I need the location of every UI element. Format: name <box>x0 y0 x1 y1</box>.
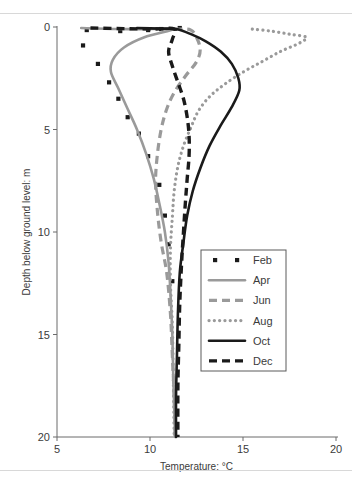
legend-label: Oct <box>253 335 270 347</box>
data-point <box>126 115 130 119</box>
data-point <box>81 43 85 47</box>
data-point <box>116 97 120 101</box>
y-tick-label: 15 <box>38 329 50 341</box>
series-oct <box>137 28 240 437</box>
axes-group <box>53 26 338 441</box>
legend-marker <box>235 258 239 262</box>
series-apr <box>81 28 175 437</box>
y-tick-label: 10 <box>38 226 50 238</box>
chart-legend: FebAprJunAugOctDec <box>201 250 286 371</box>
data-point <box>157 183 161 187</box>
legend-marker <box>213 258 217 262</box>
legend-label: Dec <box>253 355 273 367</box>
series-line <box>81 28 175 437</box>
temperature-depth-plot: 051015205101520Temperature: °CDepth belo… <box>0 0 352 491</box>
bottom-divider-rule <box>0 470 352 471</box>
y-tick-label: 20 <box>38 431 50 443</box>
legend-label: Jun <box>253 294 271 306</box>
y-axis-title: Depth below ground level: m <box>21 169 32 296</box>
series-group <box>81 26 307 437</box>
legend-box <box>201 250 286 371</box>
x-tick-label: 20 <box>330 443 342 455</box>
x-tick-label: 10 <box>144 443 156 455</box>
series-line <box>137 28 240 437</box>
x-tick-label: 5 <box>54 443 60 455</box>
legend-label: Aug <box>253 315 273 327</box>
y-tick-label: 0 <box>44 21 50 33</box>
chart-figure: 051015205101520Temperature: °CDepth belo… <box>0 0 352 491</box>
legend-label: Apr <box>253 274 270 286</box>
legend-label: Feb <box>253 254 272 266</box>
y-tick-label: 5 <box>44 124 50 136</box>
x-tick-label: 15 <box>237 443 249 455</box>
data-point <box>96 62 100 66</box>
top-divider-rule <box>0 13 352 14</box>
data-point <box>107 80 111 84</box>
